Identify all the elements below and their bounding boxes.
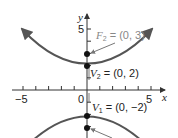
y-axis-label: y (78, 12, 83, 23)
v1-annotation: V1 = (0, −2) (92, 102, 147, 114)
focus-f2-point (84, 51, 90, 57)
f2-annotation: F2 = (0, 3) (96, 30, 145, 42)
v2-annotation: V2 = (0, 2) (90, 68, 139, 80)
f1-pointer-line (91, 129, 112, 138)
f2-pointer-line (91, 43, 115, 53)
x-tick-label-neg5: −5 (15, 94, 28, 105)
x-tick-label-0: 0 (78, 94, 84, 105)
x-axis-label: x (162, 92, 167, 103)
focus-f1-point (84, 125, 90, 131)
y-tick-label-5: 5 (78, 24, 84, 35)
hyperbola-plot (0, 0, 178, 138)
vertex-v1-point (84, 113, 90, 119)
